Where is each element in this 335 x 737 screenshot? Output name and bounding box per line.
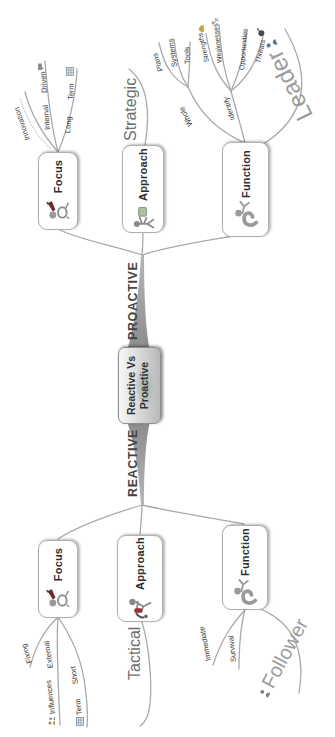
leaf-term-proactive[interactable]: Term <box>67 83 76 100</box>
influences-people-icon <box>48 716 56 726</box>
weaknesses-icon <box>211 17 219 26</box>
central-topic[interactable]: Reactive Vs Proactive <box>118 347 161 424</box>
node-reactive-focus[interactable]: Focus <box>38 540 78 618</box>
term-calendar-icon <box>76 717 84 726</box>
node-label: Function <box>239 528 251 576</box>
node-label: Focus <box>52 548 64 581</box>
mindmap-screenshot: Reactive Vs Proactive PROACTIVE REACTIVE… <box>0 0 335 737</box>
node-proactive-focus[interactable]: Focus <box>38 152 78 230</box>
central-topic-line1: Reactive Vs <box>125 348 138 423</box>
leaf-tools[interactable]: Tools <box>183 46 192 64</box>
focus-icon <box>45 584 71 610</box>
callout-strategic[interactable]: Strategic <box>122 78 140 141</box>
driven-icon <box>37 62 45 71</box>
callout-tactical[interactable]: Tactical <box>126 627 144 680</box>
reactive-branch-label[interactable]: REACTIVE <box>126 429 140 497</box>
focus-icon <box>45 196 71 222</box>
node-label: Focus <box>52 160 64 193</box>
strengths-muscle-icon <box>197 24 205 33</box>
term-calendar-icon <box>66 67 74 76</box>
node-proactive-approach[interactable]: Approach <box>122 145 164 233</box>
mindmap-canvas: Reactive Vs Proactive PROACTIVE REACTIVE… <box>0 0 335 737</box>
node-label: Approach <box>137 148 149 201</box>
function-question-icon <box>231 579 259 607</box>
node-reactive-function[interactable]: Function <box>222 525 268 610</box>
approach-firefighting-icon <box>127 593 154 620</box>
node-label: Approach <box>134 537 146 590</box>
proactive-branch-label[interactable]: PROACTIVE <box>126 262 140 340</box>
leaf-long[interactable]: Long <box>64 116 73 133</box>
function-question-icon <box>232 201 260 229</box>
central-topic-line2: Proactive <box>138 348 151 423</box>
approach-planning-icon <box>130 204 156 230</box>
node-proactive-function[interactable]: Function <box>222 142 269 237</box>
node-label: Function <box>240 150 252 198</box>
node-reactive-approach[interactable]: Approach <box>117 535 163 622</box>
